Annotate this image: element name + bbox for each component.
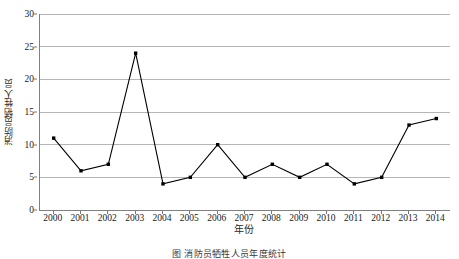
x-tick-mark xyxy=(353,211,354,214)
y-tick-mark xyxy=(34,14,37,15)
x-tick-label: 2014 xyxy=(426,213,445,224)
data-point-marker[interactable] xyxy=(435,117,438,120)
x-tick-label: 2003 xyxy=(125,213,144,224)
x-tick-label: 2001 xyxy=(71,213,90,224)
x-tick-label: 2012 xyxy=(371,213,390,224)
data-point-marker[interactable] xyxy=(134,52,137,55)
data-point-marker[interactable] xyxy=(271,163,274,166)
x-tick-mark xyxy=(80,211,81,214)
y-axis-ticks: 051015202530 xyxy=(16,14,37,210)
series-line xyxy=(54,53,437,184)
y-tick-mark xyxy=(34,177,37,178)
x-tick-mark xyxy=(435,211,436,214)
y-tick-label: 20 xyxy=(25,74,35,84)
x-tick-mark xyxy=(135,211,136,214)
data-point-marker[interactable] xyxy=(353,182,356,185)
figure-caption: 图 消防员牺牲人员年度统计 xyxy=(0,249,459,259)
x-tick-label: 2010 xyxy=(317,213,336,224)
y-tick-label: 10 xyxy=(25,140,35,150)
data-point-marker[interactable] xyxy=(325,163,328,166)
data-point-marker[interactable] xyxy=(407,123,410,126)
data-point-marker[interactable] xyxy=(380,176,383,179)
plot-area xyxy=(39,14,450,211)
x-tick-label: 2004 xyxy=(153,213,172,224)
y-tick-mark xyxy=(34,79,37,80)
y-tick-mark xyxy=(34,210,37,211)
x-tick-mark xyxy=(217,211,218,214)
x-tick-mark xyxy=(162,211,163,214)
x-tick-mark xyxy=(299,211,300,214)
x-tick-label: 2009 xyxy=(289,213,308,224)
line-chart-svg xyxy=(40,14,450,210)
x-tick-label: 2002 xyxy=(98,213,117,224)
x-tick-mark xyxy=(326,211,327,214)
data-point-marker[interactable] xyxy=(52,136,55,139)
y-axis-title: 消防员牺牲人员 xyxy=(0,14,16,210)
data-point-marker[interactable] xyxy=(161,182,164,185)
data-series-layer xyxy=(52,52,438,186)
x-tick-label: 2008 xyxy=(262,213,281,224)
data-point-marker[interactable] xyxy=(298,176,301,179)
x-tick-label: 2007 xyxy=(235,213,254,224)
gridlines xyxy=(40,14,450,177)
x-tick-label: 2013 xyxy=(399,213,418,224)
y-tick-mark xyxy=(34,46,37,47)
x-tick-mark xyxy=(53,211,54,214)
y-tick-mark xyxy=(34,144,37,145)
chart-figure: 消防员牺牲人员 051015202530 2000200120022003200… xyxy=(0,0,459,259)
x-tick-mark xyxy=(189,211,190,214)
y-tick-label: 25 xyxy=(25,42,35,52)
x-tick-mark xyxy=(271,211,272,214)
y-tick-mark xyxy=(34,112,37,113)
y-tick-label: 15 xyxy=(25,107,35,117)
x-tick-mark xyxy=(381,211,382,214)
data-point-marker[interactable] xyxy=(189,176,192,179)
y-tick-label: 30 xyxy=(25,9,35,19)
x-tick-label: 2011 xyxy=(344,213,363,224)
x-tick-mark xyxy=(408,211,409,214)
data-point-marker[interactable] xyxy=(243,176,246,179)
x-tick-label: 2000 xyxy=(43,213,62,224)
data-point-marker[interactable] xyxy=(107,163,110,166)
x-tick-mark xyxy=(244,211,245,214)
x-tick-label: 2005 xyxy=(180,213,199,224)
x-tick-label: 2006 xyxy=(207,213,226,224)
x-tick-mark xyxy=(107,211,108,214)
x-axis-ticks: 2000200120022003200420052006200720082009… xyxy=(39,211,449,225)
data-point-marker[interactable] xyxy=(216,143,219,146)
data-point-marker[interactable] xyxy=(79,169,82,172)
x-axis-title: 年份 xyxy=(39,224,449,235)
